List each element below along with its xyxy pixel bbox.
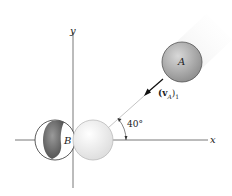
ball-a-label: A xyxy=(178,57,185,67)
velocity-label: (vA)1 xyxy=(158,89,179,100)
ball-a-impact-position xyxy=(73,120,113,160)
ball-b-label: B xyxy=(64,136,71,146)
collision-diagram xyxy=(0,0,232,196)
angle-label: 40° xyxy=(127,120,143,129)
x-axis-label: x xyxy=(210,135,216,145)
y-axis-label: y xyxy=(70,26,76,36)
